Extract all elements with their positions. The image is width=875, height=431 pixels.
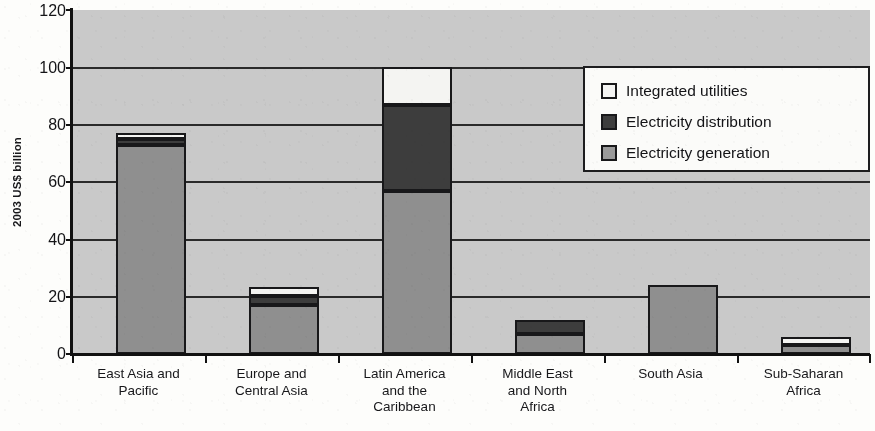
x-category-label-line: Pacific: [72, 383, 205, 400]
y-tick-label-100: 100: [20, 60, 66, 76]
y-tick-label-80: 80: [20, 117, 66, 133]
legend-label-electricity-generation: Electricity generation: [626, 145, 770, 161]
x-tick-mark-5: [737, 354, 739, 363]
x-tick-mark-2: [338, 354, 340, 363]
x-category-label-line: East Asia and: [72, 366, 205, 383]
legend-item-electricity-generation: Electricity generation: [601, 137, 868, 168]
y-tick-label-20: 20: [20, 289, 66, 305]
legend-swatch-integrated-utilities: [601, 83, 617, 99]
bar-segment-electricity-distribution: [116, 139, 186, 145]
y-tick-label-0: 0: [20, 346, 66, 362]
bar-segment-electricity-generation: [382, 191, 452, 354]
x-category-label-europe-and-central-asia: Europe and Central Asia: [205, 366, 338, 399]
x-category-label-middle-east-and-north-africa: Middle East and North Africa: [471, 366, 604, 416]
legend-label-electricity-distribution: Electricity distribution: [626, 114, 772, 130]
x-category-label-line: Africa: [471, 399, 604, 416]
bar-segment-integrated-utilities: [382, 67, 452, 105]
plot-area: Integrated utilities Electricity distrib…: [72, 10, 870, 354]
bar-segment-electricity-distribution: [515, 320, 585, 334]
chart-legend: Integrated utilities Electricity distrib…: [583, 66, 870, 172]
bar-segment-electricity-generation: [648, 285, 718, 354]
y-axis-line: [70, 8, 73, 356]
y-tick-label-60: 60: [20, 174, 66, 190]
x-category-label-line: South Asia: [604, 366, 737, 383]
bar-south-asia: [648, 285, 718, 354]
bar-east-asia-and-pacific: [116, 133, 186, 354]
x-category-label-latin-america-and-the-caribbean: Latin America and the Caribbean: [338, 366, 471, 416]
x-category-label-line: Central Asia: [205, 383, 338, 400]
x-tick-mark-1: [205, 354, 207, 363]
x-tick-mark-3: [471, 354, 473, 363]
bar-europe-and-central-asia: [249, 287, 319, 354]
x-category-label-line: Africa: [737, 383, 870, 400]
stacked-bar-chart: 2003 US$ billion 120 100 80 60 40 20 0: [0, 0, 875, 431]
legend-item-electricity-distribution: Electricity distribution: [601, 106, 868, 137]
gridline-60: [72, 181, 870, 183]
bar-latin-america-and-the-caribbean: [382, 67, 452, 354]
x-axis-line: [70, 353, 870, 356]
bar-segment-electricity-distribution: [249, 296, 319, 305]
bar-segment-integrated-utilities: [781, 337, 851, 345]
y-tick-label-40: 40: [20, 232, 66, 248]
legend-swatch-electricity-distribution: [601, 114, 617, 130]
bar-segment-integrated-utilities: [249, 287, 319, 296]
bar-segment-electricity-generation: [116, 145, 186, 354]
y-tick-label-120: 120: [20, 3, 66, 19]
gridline-40: [72, 239, 870, 241]
legend-swatch-electricity-generation: [601, 145, 617, 161]
x-tick-mark-6: [869, 354, 871, 363]
bar-middle-east-and-north-africa: [515, 320, 585, 354]
legend-item-integrated-utilities: Integrated utilities: [601, 75, 868, 106]
x-category-label-line: Middle East: [471, 366, 604, 383]
x-category-label-south-asia: South Asia: [604, 366, 737, 383]
x-category-label-line: Latin America: [338, 366, 471, 383]
x-tick-mark-4: [604, 354, 606, 363]
bar-segment-electricity-generation: [249, 305, 319, 354]
x-category-label-sub-saharan-africa: Sub-Saharan Africa: [737, 366, 870, 399]
x-category-label-line: Sub-Saharan: [737, 366, 870, 383]
x-category-label-line: and North: [471, 383, 604, 400]
bar-segment-electricity-generation: [515, 334, 585, 354]
x-category-label-line: Caribbean: [338, 399, 471, 416]
y-axis-tick-labels: 120 100 80 60 40 20 0: [14, 0, 66, 431]
x-category-label-line: Europe and: [205, 366, 338, 383]
x-tick-mark-0: [72, 354, 74, 363]
bar-segment-integrated-utilities: [116, 133, 186, 139]
bar-sub-saharan-africa: [781, 337, 851, 354]
gridline-20: [72, 296, 870, 298]
legend-label-integrated-utilities: Integrated utilities: [626, 83, 748, 99]
x-category-label-east-asia-and-pacific: East Asia and Pacific: [72, 366, 205, 399]
x-category-label-line: and the: [338, 383, 471, 400]
bar-segment-electricity-distribution: [382, 105, 452, 191]
